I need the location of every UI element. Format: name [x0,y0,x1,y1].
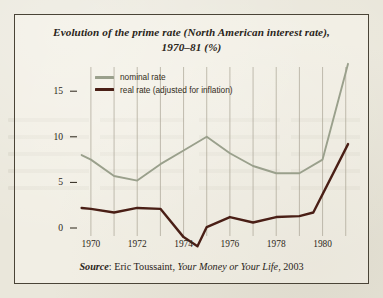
legend-label-real-rate: real rate (adjusted for inflation) [120,84,233,97]
x-axis-label-1970: 1970 [74,239,108,249]
legend-swatch-nominal-rate [95,76,114,79]
x-axis-label-1974: 1974 [167,239,201,249]
y-axis-tick-marks [70,91,77,228]
y-axis-label-5: 5 [37,176,63,187]
source-work-title: Your Money or Your Life [178,261,279,272]
source-label: Source [79,261,108,272]
y-axis-label-0: 0 [37,222,63,233]
y-axis-label-15: 15 [37,85,63,96]
source-author: Eric Toussaint, [114,261,177,272]
legend-label-nominal-rate: nominal rate [120,71,166,84]
x-axis-label-1976: 1976 [213,239,247,249]
y-axis-label-10: 10 [37,131,63,142]
figure-frame: Evolution of the prime rate (North Ameri… [14,14,369,284]
source-year: , 2003 [278,261,303,272]
x-axis-label-1972: 1972 [120,239,154,249]
x-axis-label-1978: 1978 [259,239,293,249]
legend-item-nominal-rate: nominal rate [95,71,233,84]
x-axis-label-1980: 1980 [306,239,340,249]
legend-item-real-rate: real rate (adjusted for inflation) [95,84,233,97]
legend-swatch-real-rate [95,88,114,91]
source-caption: Source: Eric Toussaint, Your Money or Yo… [25,261,358,272]
series-line-real-rate [82,144,348,246]
chart-legend: nominal rate real rate (adjusted for inf… [95,71,233,96]
